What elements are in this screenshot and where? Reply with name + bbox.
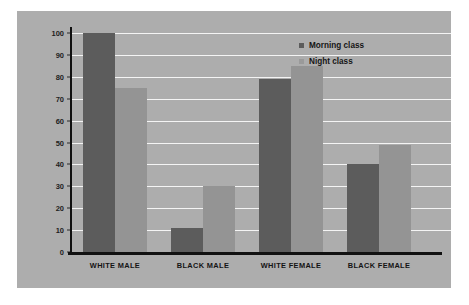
bar[interactable]	[347, 164, 379, 252]
y-tick-label: 0	[60, 248, 64, 257]
bar[interactable]	[171, 228, 203, 252]
legend-label: Morning class	[309, 41, 364, 50]
plot-area: 0102030405060708090100 WHITE MALEBLACK M…	[71, 33, 451, 252]
x-axis-line	[68, 252, 442, 255]
legend-swatch-icon	[299, 59, 304, 64]
y-tick-label: 80	[56, 72, 64, 81]
bar-group	[83, 33, 147, 252]
legend-item[interactable]: Morning class	[299, 39, 364, 52]
category-label: BLACK FEMALE	[348, 261, 411, 270]
legend-label: Night class	[309, 57, 353, 66]
bar-series-container	[71, 33, 451, 252]
y-tick-label: 30	[56, 182, 64, 191]
y-tick-label: 90	[56, 50, 64, 59]
bar[interactable]	[259, 79, 291, 252]
y-tick-label: 70	[56, 94, 64, 103]
y-tick-label: 40	[56, 160, 64, 169]
legend-item[interactable]: Night class	[299, 55, 364, 68]
category-label: WHITE MALE	[90, 261, 140, 270]
y-tick-label: 10	[56, 226, 64, 235]
chart-panel: FREQUENCY 0102030405060708090100 WHITE M…	[17, 11, 451, 288]
y-axis-title: FREQUENCY	[37, 11, 49, 33]
category-label: BLACK MALE	[177, 261, 229, 270]
y-tick-label: 20	[56, 204, 64, 213]
y-tick-label: 100	[51, 29, 64, 38]
bar[interactable]	[115, 88, 147, 252]
bar[interactable]	[83, 33, 115, 252]
legend-swatch-icon	[299, 43, 304, 48]
category-label: WHITE FEMALE	[261, 261, 321, 270]
bar-group	[171, 33, 235, 252]
y-tick-label: 60	[56, 116, 64, 125]
y-tick-label: 50	[56, 138, 64, 147]
bar[interactable]	[379, 145, 411, 252]
chart-figure: FREQUENCY 0102030405060708090100 WHITE M…	[0, 0, 469, 305]
bar[interactable]	[291, 66, 323, 252]
chart-legend: Morning classNight class	[299, 39, 364, 71]
bar[interactable]	[203, 186, 235, 252]
